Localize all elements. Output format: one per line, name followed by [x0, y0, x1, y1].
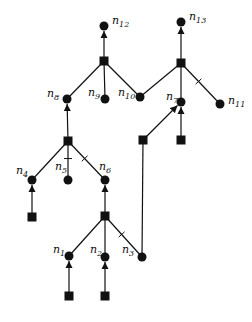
- node-label-n4: n4: [16, 164, 28, 179]
- junction-s9-square: [101, 292, 110, 301]
- node-label-n10: n10: [118, 86, 135, 101]
- edge-s5-n3: [142, 140, 143, 257]
- junction-s4-square: [101, 212, 110, 221]
- node-label-n9: n9: [88, 86, 100, 101]
- node-n8-circle: [63, 95, 72, 104]
- node-n6-circle: [101, 176, 110, 185]
- node-n11-circle: [216, 100, 225, 109]
- edge-s5-n7: [143, 106, 177, 140]
- node-label-n11: n11: [228, 94, 245, 109]
- node-label-n7: n7: [166, 90, 179, 105]
- node-n10-circle: [136, 93, 145, 102]
- labels-layer: n12n13n8n9n10n7n11n4n5n6n1n2n3: [16, 10, 245, 258]
- nodes-layer: [28, 18, 225, 301]
- node-n5-circle: [64, 176, 73, 185]
- graph-diagram: n12n13n8n9n10n7n11n4n5n6n1n2n3: [0, 0, 252, 322]
- node-label-n1: n1: [53, 243, 65, 258]
- node-label-n2: n2: [90, 243, 102, 258]
- junction-s7-square: [28, 213, 37, 222]
- node-n1-circle: [65, 252, 74, 261]
- node-n13-circle: [177, 18, 186, 27]
- junction-s8-square: [65, 292, 74, 301]
- junction-s6-square: [177, 136, 186, 145]
- node-n12-circle: [100, 22, 109, 31]
- node-label-n5: n5: [55, 160, 67, 175]
- node-n9-circle: [101, 95, 110, 104]
- node-label-n13: n13: [189, 10, 206, 25]
- node-label-n6: n6: [99, 160, 111, 175]
- node-label-n8: n8: [47, 87, 59, 102]
- edge-s2-n10: [140, 63, 181, 97]
- node-label-n3: n3: [122, 243, 134, 258]
- node-label-n12: n12: [112, 14, 129, 29]
- junction-s2-square: [177, 59, 186, 68]
- edge-s2-n11: [181, 63, 220, 104]
- edge-s3-n8: [67, 104, 68, 141]
- node-n4-circle: [28, 176, 37, 185]
- node-n3-circle: [138, 253, 147, 262]
- edge-s1-n9: [104, 61, 105, 99]
- junction-s3-square: [64, 137, 73, 146]
- junction-s1-square: [100, 57, 109, 66]
- junction-s5-square: [139, 136, 148, 145]
